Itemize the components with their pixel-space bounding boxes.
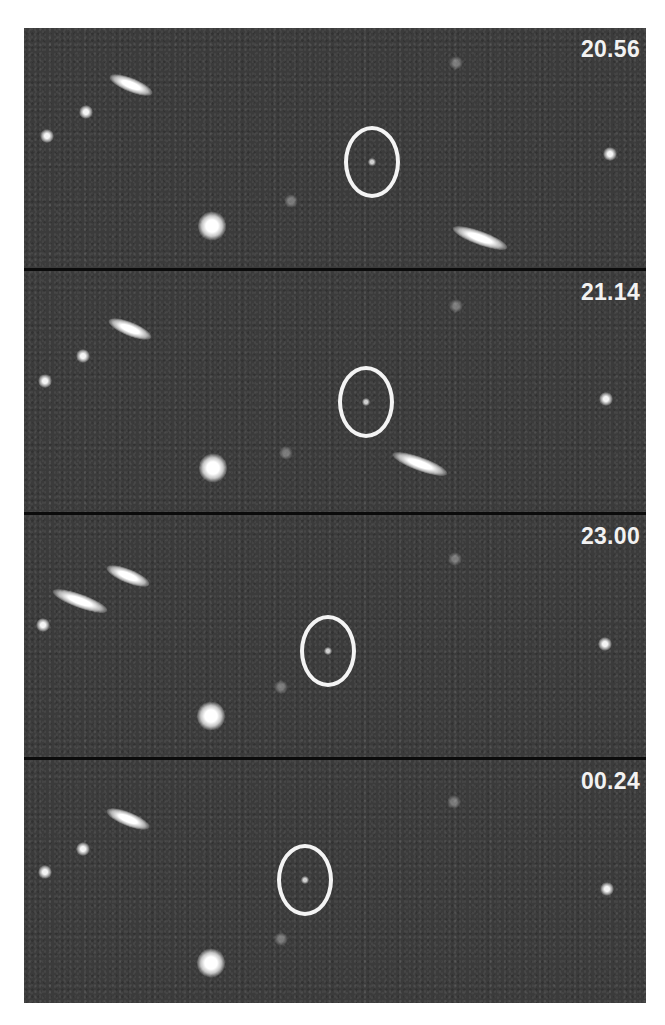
image-sequence-frame: 20.56 21.14 23.00: [24, 28, 646, 1003]
galaxy-streak: [450, 222, 509, 255]
timestamp-label: 21.14: [581, 279, 640, 306]
moving-object: [368, 158, 376, 166]
moving-object: [362, 398, 370, 406]
star: [274, 932, 288, 946]
galaxy-streak: [104, 561, 152, 591]
bright-star: [198, 211, 226, 241]
timestamp-label: 23.00: [581, 523, 640, 550]
star: [279, 446, 293, 460]
star: [38, 865, 52, 879]
star: [447, 795, 461, 809]
galaxy-streak: [106, 314, 154, 344]
star: [449, 299, 463, 313]
moving-object: [324, 647, 332, 655]
timestamp-label: 00.24: [581, 768, 640, 795]
star: [38, 374, 52, 388]
star: [449, 56, 463, 70]
bright-star: [197, 948, 225, 978]
star: [284, 194, 298, 208]
star: [79, 105, 93, 119]
star: [76, 349, 90, 363]
frame-panel-4: 00.24: [24, 760, 646, 1003]
bright-star: [199, 453, 227, 483]
frame-panel-3: 23.00: [24, 515, 646, 757]
star: [598, 637, 612, 651]
star: [599, 392, 613, 406]
frame-panel-2: 21.14: [24, 271, 646, 512]
bright-star: [197, 701, 225, 731]
star: [448, 552, 462, 566]
star: [40, 129, 54, 143]
galaxy-streak: [107, 70, 155, 100]
frame-panel-1: 20.56: [24, 28, 646, 268]
star: [600, 882, 614, 896]
moving-object: [301, 876, 309, 884]
star: [36, 618, 50, 632]
galaxy-streak: [50, 585, 109, 618]
galaxy-streak: [390, 448, 449, 481]
galaxy-streak: [104, 804, 152, 834]
star: [603, 147, 617, 161]
star: [274, 680, 288, 694]
timestamp-label: 20.56: [581, 36, 640, 63]
star: [76, 842, 90, 856]
